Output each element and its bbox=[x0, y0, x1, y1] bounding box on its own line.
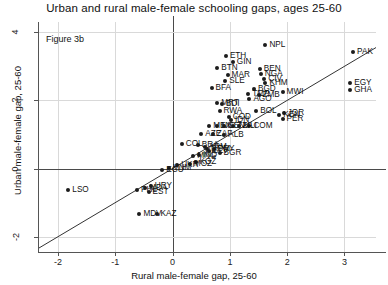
data-point-label: URY bbox=[155, 182, 172, 190]
x-tick-mark bbox=[287, 252, 288, 256]
data-point[interactable] bbox=[222, 124, 226, 128]
data-point[interactable] bbox=[149, 184, 153, 188]
data-point[interactable] bbox=[215, 66, 219, 70]
data-point-label: PER bbox=[287, 115, 304, 123]
data-point[interactable] bbox=[155, 212, 159, 216]
y-tick-label: -2 bbox=[11, 233, 21, 241]
data-point[interactable] bbox=[196, 143, 200, 147]
data-point[interactable] bbox=[180, 142, 184, 146]
x-axis-label: Rural male-female gap, 25-60 bbox=[0, 270, 388, 281]
x-tick-mark bbox=[58, 252, 59, 256]
data-point[interactable] bbox=[215, 101, 219, 105]
x-tick-label: -2 bbox=[54, 257, 62, 267]
data-point-label: MLI bbox=[243, 122, 257, 130]
y-axis-label: Urban male-female gap, 25-60 bbox=[12, 56, 23, 206]
data-point-label: SLE bbox=[229, 77, 244, 85]
data-point[interactable] bbox=[224, 54, 228, 58]
x-tick-label: 0 bbox=[170, 257, 175, 267]
data-point-label: PAK bbox=[357, 48, 373, 56]
data-point[interactable] bbox=[218, 151, 222, 155]
data-point-label: AGO bbox=[253, 95, 271, 103]
y-axis-line bbox=[38, 22, 39, 252]
data-point[interactable] bbox=[247, 97, 251, 101]
x-tick-mark bbox=[115, 252, 116, 256]
x-tick-mark bbox=[173, 252, 174, 256]
y-tick-mark bbox=[34, 237, 38, 238]
data-point[interactable] bbox=[215, 124, 219, 128]
data-point[interactable] bbox=[66, 188, 70, 192]
x-tick-mark bbox=[230, 252, 231, 256]
data-point[interactable] bbox=[231, 124, 235, 128]
x-axis-line bbox=[38, 252, 386, 253]
data-point[interactable] bbox=[263, 43, 267, 47]
data-point[interactable] bbox=[237, 124, 241, 128]
data-point[interactable] bbox=[143, 186, 147, 190]
data-point[interactable] bbox=[246, 92, 250, 96]
data-point-label: KAZ bbox=[161, 210, 177, 218]
data-point[interactable] bbox=[281, 117, 285, 121]
data-point-label: BGR bbox=[224, 149, 242, 157]
data-point[interactable] bbox=[218, 109, 222, 113]
data-point-label: BOL bbox=[260, 107, 276, 115]
y-tick-mark bbox=[34, 100, 38, 101]
data-point[interactable] bbox=[223, 79, 227, 83]
data-point[interactable] bbox=[258, 67, 262, 71]
x-tick-label: 3 bbox=[342, 257, 347, 267]
data-point[interactable] bbox=[254, 109, 258, 113]
data-point[interactable] bbox=[210, 86, 214, 90]
data-point-label: LSO bbox=[72, 186, 88, 194]
x-tick-label: 1 bbox=[227, 257, 232, 267]
y-tick-mark bbox=[34, 32, 38, 33]
data-point-label: MDV bbox=[143, 210, 161, 218]
data-point-label: ALB bbox=[228, 131, 243, 139]
x-tick-label: -1 bbox=[111, 257, 119, 267]
data-point[interactable] bbox=[351, 50, 355, 54]
data-point[interactable] bbox=[207, 124, 211, 128]
data-point[interactable] bbox=[137, 212, 141, 216]
x-tick-label: 2 bbox=[285, 257, 290, 267]
y-tick-mark bbox=[34, 169, 38, 170]
data-point[interactable] bbox=[348, 88, 352, 92]
data-point[interactable] bbox=[160, 168, 164, 172]
chart-title: Urban and rural male-female schooling ga… bbox=[0, 2, 388, 14]
data-point[interactable] bbox=[259, 72, 263, 76]
data-point-label: GHA bbox=[354, 86, 372, 94]
data-point[interactable] bbox=[199, 132, 203, 136]
data-point[interactable] bbox=[191, 154, 195, 158]
data-point[interactable] bbox=[135, 188, 139, 192]
data-point-label: GIN bbox=[237, 58, 252, 66]
data-point[interactable] bbox=[211, 132, 215, 136]
data-point-label: ECU bbox=[166, 166, 183, 174]
data-point-label: COL bbox=[186, 140, 203, 148]
data-point-label: NPL bbox=[269, 41, 285, 49]
data-point[interactable] bbox=[281, 90, 285, 94]
scatter-chart: Urban and rural male-female schooling ga… bbox=[0, 0, 388, 285]
data-point-label: MWI bbox=[287, 88, 304, 96]
figure-note: Figure 3b bbox=[46, 34, 84, 44]
data-point[interactable] bbox=[222, 133, 226, 137]
x-tick-mark bbox=[344, 252, 345, 256]
data-point[interactable] bbox=[348, 81, 352, 85]
y-tick-label: 4 bbox=[10, 30, 20, 35]
plot-area: NPLPAKETHGINBTNBENNGAMARCIVSLEKHMEGYBFAB… bbox=[38, 22, 376, 252]
data-point-label: BFA bbox=[216, 84, 231, 92]
